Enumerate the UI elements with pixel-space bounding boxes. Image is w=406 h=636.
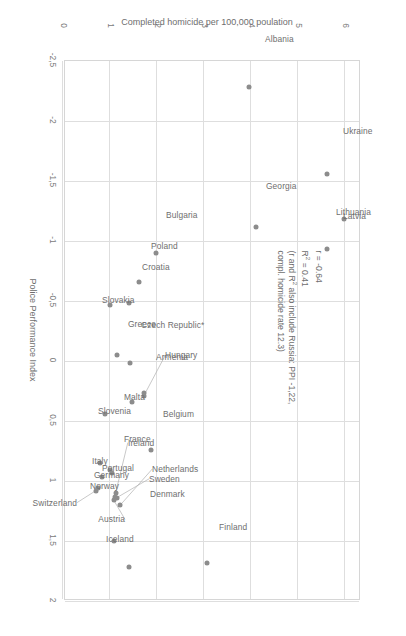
data-point (127, 361, 132, 366)
data-point (137, 279, 142, 284)
gridline-horizontal (250, 61, 251, 599)
point-label: Sweden (149, 474, 180, 484)
leader-line (77, 491, 96, 503)
rotated-figure-stage: AlbaniaUkraineLithuaniaGeorgiaLatviaBulg… (0, 0, 406, 636)
gridline-horizontal (156, 61, 157, 599)
data-point (253, 224, 258, 229)
point-label: Georgia (266, 181, 297, 191)
x-tick-label: -1 (48, 236, 58, 243)
point-label: Albania (265, 34, 294, 44)
annotation-line: r = -0.64 (312, 251, 323, 405)
gridline-vertical (65, 121, 359, 122)
gridline-vertical (65, 241, 359, 242)
plot-area: AlbaniaUkraineLithuaniaGeorgiaLatviaBulg… (64, 60, 360, 600)
x-tick-label: -1,5 (48, 173, 58, 187)
point-label: Belgium (163, 409, 194, 419)
gridline-horizontal (62, 61, 63, 599)
point-label: Latvia (343, 211, 366, 221)
x-tick-label: 2 (48, 598, 58, 603)
point-label: Norway (90, 481, 119, 491)
data-point (118, 503, 123, 508)
data-point (111, 498, 116, 503)
point-label: Malta (124, 392, 145, 402)
point-label: Bulgaria (166, 210, 198, 220)
gridline-vertical (65, 421, 359, 422)
annotation-line: compl. homicide rate 12.3) (275, 251, 286, 405)
point-label: Iceland (106, 534, 134, 544)
x-tick-label: -0,5 (48, 293, 58, 307)
point-label: Switzerland (33, 498, 77, 508)
point-label: Denmark (150, 489, 185, 499)
x-tick-label: 1 (48, 478, 58, 483)
data-point (154, 251, 159, 256)
scatter-chart-figure: AlbaniaUkraineLithuaniaGeorgiaLatviaBulg… (0, 0, 406, 636)
point-label: Austria (98, 514, 125, 524)
stats-annotation: r = -0.64R2 = 0.41(r and R2 also include… (275, 251, 324, 405)
x-tick-label: 0,5 (48, 414, 58, 426)
x-tick-label: -2 (48, 116, 58, 123)
annotation-line: (r and R2 also include Russia: PPI -1,22… (286, 251, 299, 405)
data-point (115, 353, 120, 358)
data-point (205, 560, 210, 565)
x-tick-label: -2,5 (48, 53, 58, 67)
point-label: Ireland (128, 438, 154, 448)
point-label: Czech Republic* (141, 320, 204, 330)
point-label: Finland (219, 522, 247, 532)
x-tick-label: 1,5 (48, 534, 58, 546)
data-point (325, 247, 330, 252)
gridline-horizontal (344, 61, 345, 599)
point-label: Italy (92, 456, 108, 466)
point-label: Croatia (142, 262, 170, 272)
gridline-vertical (65, 601, 359, 602)
data-point (246, 85, 251, 90)
annotation-line: R2 = 0.41 (299, 251, 312, 405)
point-label: Netherlands (152, 464, 198, 474)
point-label: Slovenia (98, 406, 131, 416)
point-label: Germany (94, 470, 129, 480)
gridline-vertical (65, 181, 359, 182)
data-point (126, 565, 131, 570)
point-label: Poland (151, 241, 178, 251)
data-point (325, 171, 330, 176)
point-label: Ukraine (343, 126, 373, 136)
x-axis-title: Police Performance Index (28, 60, 38, 600)
x-tick-label: 0 (48, 358, 58, 363)
point-label: Hungary (165, 350, 197, 360)
point-label: Slovakia (102, 295, 134, 305)
y-axis-title: Completed homicide per 100,000 poulation (59, 17, 355, 27)
data-point (149, 447, 154, 452)
gridline-horizontal (203, 61, 204, 599)
